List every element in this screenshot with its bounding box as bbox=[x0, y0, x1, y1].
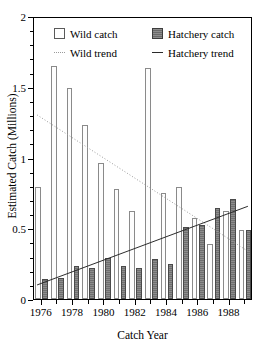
chart-legend: Wild catch Hatchery catch Wild trend Hat… bbox=[54, 24, 244, 62]
y-tick-label-1: 1 bbox=[21, 154, 27, 165]
x-tick-1987 bbox=[213, 300, 214, 304]
x-tick-1981 bbox=[119, 300, 120, 304]
legend-row-catch: Wild catch Hatchery catch bbox=[54, 24, 244, 43]
wild-catch-swatch-icon bbox=[54, 28, 65, 39]
x-tick-1989 bbox=[244, 300, 245, 304]
x-tick-1983 bbox=[150, 300, 151, 304]
x-tick-1980 bbox=[103, 300, 104, 305]
hatchery-trend-line bbox=[37, 206, 248, 285]
x-axis-labels: 1976197819801982198419861988 bbox=[33, 306, 252, 320]
x-tick-label-1980: 1980 bbox=[92, 306, 114, 319]
x-tick-1976 bbox=[41, 300, 42, 305]
x-tick-label-1976: 1976 bbox=[30, 306, 52, 319]
x-tick-label-1978: 1978 bbox=[61, 306, 83, 319]
x-tick-label-1984: 1984 bbox=[155, 306, 177, 319]
legend-label-hatchery-catch: Hatchery catch bbox=[168, 28, 234, 40]
x-tick-1985 bbox=[182, 300, 183, 304]
legend-label-wild-catch: Wild catch bbox=[70, 28, 118, 40]
legend-item-hatchery-catch: Hatchery catch bbox=[152, 28, 234, 40]
legend-label-wild-trend: Wild trend bbox=[70, 47, 117, 59]
x-tick-1984 bbox=[166, 300, 167, 305]
legend-item-wild-trend: Wild trend bbox=[54, 47, 152, 59]
x-tick-1986 bbox=[197, 300, 198, 305]
x-tick-label-1982: 1982 bbox=[124, 306, 146, 319]
legend-label-hatchery-trend: Hatchery trend bbox=[168, 47, 234, 59]
x-tick-1982 bbox=[135, 300, 136, 305]
y-axis-title: Estimated Catch (Millions) bbox=[6, 61, 18, 251]
wild-trend-line-icon bbox=[54, 47, 65, 58]
x-tick-label-1988: 1988 bbox=[218, 306, 240, 319]
hatchery-trend-line-icon bbox=[152, 47, 163, 58]
x-axis-title: Catch Year bbox=[33, 329, 252, 341]
legend-item-hatchery-trend: Hatchery trend bbox=[152, 47, 234, 59]
hatchery-catch-swatch-icon bbox=[152, 28, 163, 39]
x-tick-1978 bbox=[72, 300, 73, 305]
legend-row-trend: Wild trend Hatchery trend bbox=[54, 43, 244, 62]
wild-trend-line bbox=[37, 115, 248, 251]
x-tick-1988 bbox=[229, 300, 230, 305]
chart-figure: 00.511.52 Estimated Catch (Millions) 197… bbox=[0, 0, 260, 349]
y-tick-label-0: 0 bbox=[21, 295, 27, 306]
legend-item-wild-catch: Wild catch bbox=[54, 28, 152, 40]
x-tick-1977 bbox=[56, 300, 57, 304]
x-tick-1979 bbox=[88, 300, 89, 304]
x-tick-label-1986: 1986 bbox=[186, 306, 208, 319]
y-tick-label-2: 2 bbox=[21, 12, 27, 23]
